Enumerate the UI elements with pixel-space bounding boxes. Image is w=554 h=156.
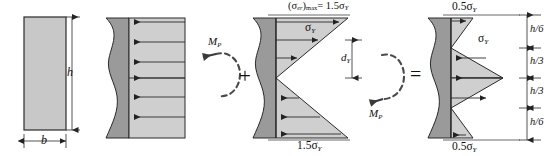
- figure-graphics: [0, 0, 554, 156]
- dimension-label-2: h/3: [530, 56, 543, 67]
- p3-m-sub: P: [378, 113, 382, 120]
- plus-operator: +: [239, 66, 251, 87]
- p3-sig-sub: Y: [311, 27, 315, 35]
- panel3-depth-label: dY: [341, 52, 350, 64]
- panel2-moment-label: MP: [208, 36, 221, 48]
- p4-top: 0.5σ: [452, 0, 473, 12]
- p3-d-sub: Y: [347, 57, 351, 64]
- p4-bot: 0.5σ: [452, 140, 473, 152]
- p4-bot-sub: Y: [473, 146, 477, 154]
- panel4-top-label: 0.5σY: [452, 1, 477, 14]
- panel3-bottom-label: 1.5σY: [297, 140, 322, 153]
- panel2-moment-sub: P: [217, 41, 221, 48]
- panel4-sigma-label: σY: [478, 33, 488, 46]
- panel3-elastic-stress: [253, 15, 404, 140]
- height-label: h: [67, 66, 73, 78]
- p3-value: = 1.5σ: [317, 0, 344, 11]
- dimension-label-1: h/6: [530, 24, 543, 35]
- dimension-label-3: h/3: [530, 86, 543, 97]
- p3-bot-sub: Y: [318, 145, 322, 153]
- p3-bot: 1.5σ: [297, 139, 318, 151]
- residual-stress-figure: h b MP + (σer)max= 1.5σY σY dY 1.5σY MP …: [0, 0, 554, 156]
- panel4-bottom-label: 0.5σY: [452, 141, 477, 154]
- p3-open: (σ: [288, 0, 297, 11]
- p3-max-sub: max: [306, 4, 317, 11]
- p4-top-sub: Y: [473, 6, 477, 14]
- width-label: b: [41, 134, 47, 146]
- panel1-cross-section: [24, 17, 80, 148]
- dimension-label-4: h/6: [530, 117, 543, 128]
- panel3-max-stress-label: (σer)max= 1.5σY: [288, 1, 348, 12]
- panel2-moment-m: M: [208, 35, 217, 47]
- equals-operator: =: [410, 64, 421, 84]
- p3-value-sub: Y: [345, 4, 349, 11]
- panel3-sigma-label: σY: [305, 22, 315, 35]
- p3-m: M: [369, 107, 378, 119]
- panel3-moment-label: MP: [369, 108, 382, 120]
- p4-sig-sub: Y: [484, 38, 488, 46]
